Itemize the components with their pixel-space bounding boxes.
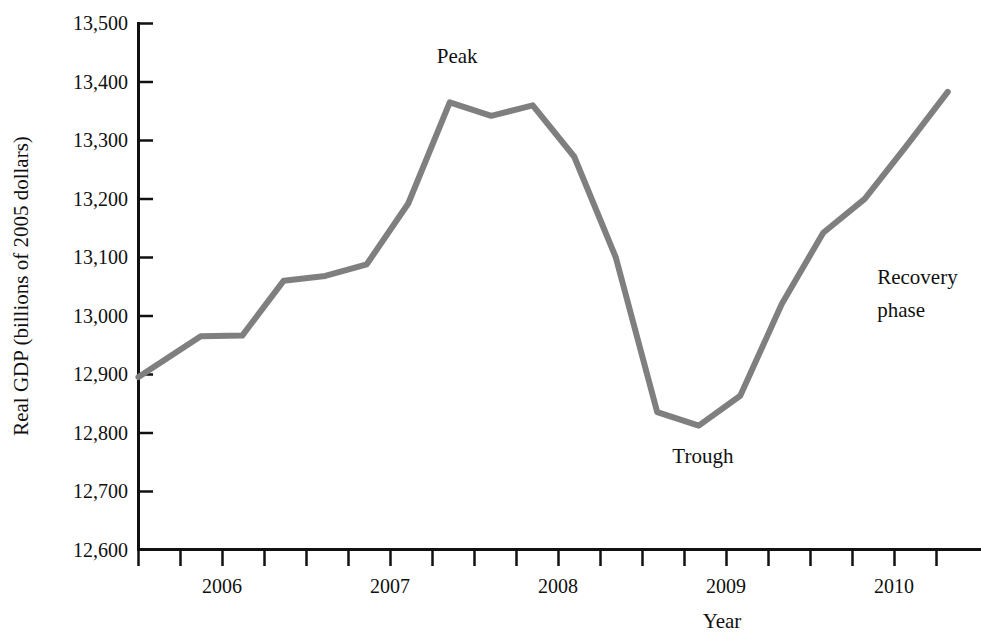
x-axis-title: Year <box>703 609 742 633</box>
y-tick-label: 13,500 <box>73 12 128 34</box>
annotation-recovery-phase-line1: Recovery <box>877 265 958 289</box>
gdp-business-cycle-chart: 13,500 13,400 13,300 13,200 13,100 13,00… <box>0 0 981 639</box>
y-axis-title: Real GDP (billions of 2005 dollars) <box>9 136 33 436</box>
y-tick-label: 13,000 <box>73 305 128 327</box>
annotation-trough: Trough <box>672 444 734 468</box>
y-tick-label: 13,300 <box>73 129 128 151</box>
x-tick-label: 2006 <box>202 575 242 597</box>
y-tick-label: 13,100 <box>73 246 128 268</box>
y-axis-ticks <box>138 24 153 492</box>
gdp-line-series <box>139 92 948 426</box>
x-axis-ticks <box>139 549 937 566</box>
annotation-recovery-phase-line2: phase <box>877 298 925 322</box>
y-tick-label: 13,200 <box>73 188 128 210</box>
y-tick-label: 12,700 <box>73 480 128 502</box>
annotation-peak: Peak <box>437 44 478 68</box>
y-tick-label: 12,800 <box>73 422 128 444</box>
x-axis-tick-labels: 2006 2007 2008 2009 2010 <box>202 575 914 597</box>
y-tick-label: 12,600 <box>73 539 128 561</box>
chart-canvas: 13,500 13,400 13,300 13,200 13,100 13,00… <box>0 0 981 639</box>
x-tick-label: 2008 <box>538 575 578 597</box>
x-tick-label: 2009 <box>706 575 746 597</box>
y-axis-tick-labels: 13,500 13,400 13,300 13,200 13,100 13,00… <box>73 12 128 561</box>
y-tick-label: 13,400 <box>73 71 128 93</box>
y-tick-label: 12,900 <box>73 363 128 385</box>
x-tick-label: 2007 <box>370 575 410 597</box>
x-tick-label: 2010 <box>874 575 914 597</box>
